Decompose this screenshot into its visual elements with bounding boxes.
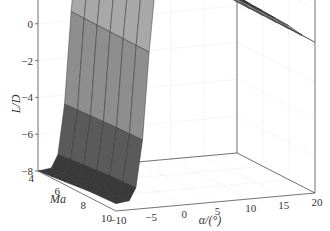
z-tick-label: −6 xyxy=(21,128,33,140)
ma-tick-label: 8 xyxy=(81,199,87,211)
grid-line xyxy=(237,43,315,83)
alpha-tick-label: 10 xyxy=(245,202,257,214)
alpha-tick-label: 20 xyxy=(312,196,324,208)
alpha-tick-label: 15 xyxy=(278,199,290,211)
alpha-tick-label: −10 xyxy=(109,214,127,226)
z-tick-label: 0 xyxy=(28,18,34,30)
lift-drag-surface xyxy=(38,0,315,204)
grid-line xyxy=(237,116,315,156)
y-axis-title: Ma xyxy=(49,192,66,206)
grid-line xyxy=(237,6,315,46)
grid-line xyxy=(138,162,216,202)
x-axis-title: α/(°) xyxy=(199,213,221,227)
alpha-tick-label: 0 xyxy=(182,208,188,220)
surface-patch xyxy=(210,0,236,1)
surface-plot: 86420−2−4−6−846810−10−505101520 L/D Ma α… xyxy=(0,0,330,231)
grid-line xyxy=(204,156,282,196)
alpha-tick-label: −5 xyxy=(145,211,157,223)
grid-line xyxy=(237,79,315,119)
surface-patch xyxy=(249,5,275,21)
ma-tick-label: 4 xyxy=(29,172,35,184)
grid-line xyxy=(171,159,249,199)
z-tick-label: −4 xyxy=(21,91,33,103)
box-edge xyxy=(237,153,315,193)
z-tick-label: −2 xyxy=(21,55,33,67)
z-axis-title: L/D xyxy=(9,94,23,114)
